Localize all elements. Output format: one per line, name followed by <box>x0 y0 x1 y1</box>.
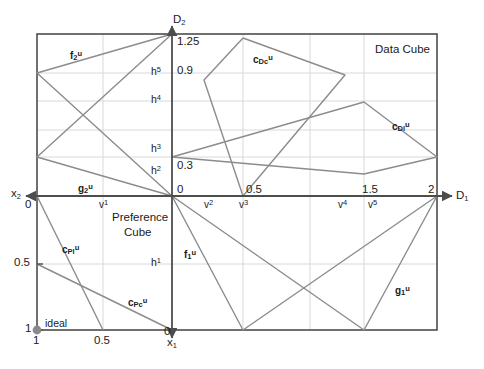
curve-label-cDlu: cDlu <box>392 121 410 133</box>
tick-d1-1.5: 1.5 <box>362 184 378 196</box>
region-title-preference-cube-line1: Preference <box>112 212 168 224</box>
level-label-h5: h5 <box>151 66 161 77</box>
tick-d2-1.25: 1.25 <box>177 36 199 48</box>
tick-d2-0.3: 0.3 <box>177 160 193 172</box>
level-label-h4: h4 <box>151 94 161 105</box>
level-label-v4: v4 <box>338 199 347 210</box>
polyline-c-Dl <box>172 102 437 174</box>
curve-label-g2u: g2u <box>78 183 93 195</box>
curve-label-cDcu: cDcu <box>253 54 273 66</box>
frame-border <box>37 34 437 330</box>
curve-polylines <box>37 34 437 330</box>
region-title-data-cube: Data Cube <box>375 44 430 56</box>
tick-x2-0: 0 <box>25 199 31 211</box>
tick-marks <box>37 264 43 330</box>
level-label-v2: v2 <box>204 199 213 210</box>
tick-x2-0.5: 0.5 <box>14 257 30 269</box>
tick-x1-0: 0 <box>164 326 170 338</box>
tick-d1-2: 2 <box>428 184 434 196</box>
diagram-canvas: D2 D1 x2 x1 1.25 0.9 0.3 0 0.5 1.5 2 0 0… <box>0 0 484 369</box>
level-label-h3: h3 <box>151 143 161 154</box>
gridlines <box>37 34 437 330</box>
tick-x2-1: 1 <box>25 323 31 335</box>
curve-label-cPlu: cPlu <box>62 244 79 256</box>
polyline-c-Pl <box>37 196 103 330</box>
polyline-c-Dc <box>204 38 345 196</box>
curve-label-f1u: f1u <box>184 249 196 261</box>
polyline-lower-right <box>172 196 437 330</box>
curve-label-f2u: f2u <box>70 50 82 62</box>
tick-x1-0.5: 0.5 <box>94 335 110 347</box>
ideal-point-label: ideal <box>45 318 67 329</box>
region-title-preference-cube-line2: Cube <box>124 227 152 239</box>
axis-label-d2: D2 <box>173 14 185 26</box>
level-label-v5: v5 <box>368 199 377 210</box>
axis-label-x2: x2 <box>11 188 21 200</box>
tick-d1-0.5: 0.5 <box>246 184 262 196</box>
axis-label-x1: x1 <box>167 337 177 349</box>
level-label-v1: v1 <box>99 199 108 210</box>
curve-label-g1u: g1u <box>395 285 410 297</box>
curve-label-cPcu: cPcu <box>128 297 147 309</box>
level-label-v3: v3 <box>239 199 248 210</box>
level-label-h2: h2 <box>151 165 161 176</box>
tick-d2-0.9: 0.9 <box>177 65 193 77</box>
tick-d2-0: 0 <box>177 184 183 196</box>
level-label-h1: h1 <box>151 257 161 268</box>
axis-label-d1: D1 <box>456 190 468 202</box>
tick-x1-1: 1 <box>33 335 39 347</box>
